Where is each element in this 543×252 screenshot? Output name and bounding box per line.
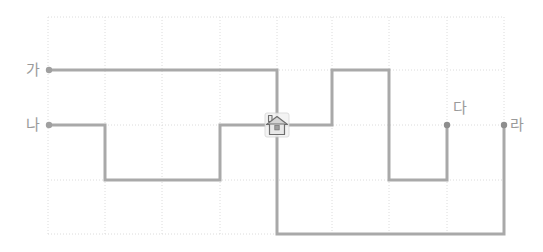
node-label-ga: 가	[26, 62, 40, 77]
node-label-da: 다	[453, 100, 467, 115]
node-dot-ra[interactable]	[501, 122, 507, 128]
node-dot-na[interactable]	[46, 122, 52, 128]
node-dot-ga[interactable]	[46, 67, 52, 73]
route-da	[277, 70, 447, 180]
route-lines	[49, 70, 504, 234]
house-window	[275, 126, 279, 130]
grid-path-figure	[0, 0, 543, 252]
route-ga	[49, 70, 277, 125]
route-na	[49, 125, 277, 180]
node-label-ra: 라	[510, 117, 524, 132]
node-label-na: 나	[26, 117, 40, 132]
house-icon	[265, 113, 289, 137]
node-dot-da[interactable]	[444, 122, 450, 128]
diagram-canvas: 가나다라	[0, 0, 543, 252]
